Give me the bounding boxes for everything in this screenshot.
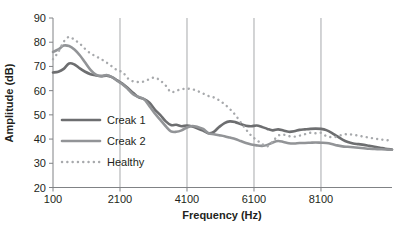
x-tick-label-100: 100 (44, 193, 62, 205)
y-tick-label-60: 60 (34, 85, 46, 97)
x-tick-label-6100: 6100 (242, 193, 266, 205)
y-tick-label-40: 40 (34, 133, 46, 145)
y-tick-label-50: 50 (34, 109, 46, 121)
amplitude-frequency-line-chart: 2030405060708090 1002100410061008100 Fre… (0, 0, 402, 230)
y-tick-label-30: 30 (34, 157, 46, 169)
x-tick-label-8100: 8100 (309, 193, 333, 205)
y-tick-label-70: 70 (34, 60, 46, 72)
y-tick-label-90: 90 (34, 12, 46, 24)
x-tick-label-2100: 2100 (108, 193, 132, 205)
legend-label-healthy[interactable]: Healthy (107, 156, 145, 168)
y-tick-label-80: 80 (34, 36, 46, 48)
y-axis-title: Amplitude (dB) (3, 63, 15, 142)
legend-label-creak-1[interactable]: Creak 1 (107, 114, 146, 126)
x-axis-title: Frequency (Hz) (182, 209, 262, 221)
chart-container: 2030405060708090 1002100410061008100 Fre… (0, 0, 402, 230)
x-tick-label-4100: 4100 (175, 193, 199, 205)
legend-label-creak-2[interactable]: Creak 2 (107, 135, 146, 147)
